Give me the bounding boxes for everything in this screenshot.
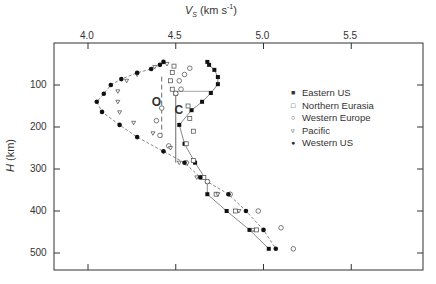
legend-item-northern-eurasia: □Northern Eurasia	[290, 100, 374, 113]
annotation-label: C	[175, 103, 184, 117]
y-tick-label: 300	[30, 163, 47, 174]
series-lines	[97, 62, 276, 249]
filled-square-icon: ■	[290, 87, 296, 100]
legend-item-western-us: ●Western US	[290, 137, 374, 150]
series-points	[94, 60, 295, 252]
annotation-label: O	[152, 95, 161, 109]
y-tick-label: 400	[30, 205, 47, 216]
filled-circle-icon: ●	[290, 137, 296, 150]
axis-ticks	[54, 43, 423, 270]
y-tick-label: 500	[30, 247, 47, 258]
y-axis-title: H (km)	[4, 139, 16, 172]
legend: ■Eastern US □Northern Eurasia ○Western E…	[290, 87, 374, 150]
x-axis-title: VS (km s-1)	[185, 3, 237, 18]
legend-item-pacific: ▿Pacific	[290, 125, 374, 138]
x-tick-label: 5.0	[256, 30, 270, 41]
open-triangle-icon: ▿	[290, 125, 296, 138]
x-tick-label: 4.5	[168, 30, 182, 41]
plot-frame	[54, 43, 423, 270]
y-tick-label: 200	[30, 121, 47, 132]
open-circle-icon: ○	[290, 112, 296, 125]
legend-item-western-europe: ○Western Europe	[290, 112, 374, 125]
legend-item-eastern-us: ■Eastern US	[290, 87, 374, 100]
x-tick-label: 4.0	[80, 30, 94, 41]
y-tick-label: 100	[30, 79, 47, 90]
open-square-icon: □	[290, 100, 296, 113]
x-tick-label: 5.5	[343, 30, 357, 41]
